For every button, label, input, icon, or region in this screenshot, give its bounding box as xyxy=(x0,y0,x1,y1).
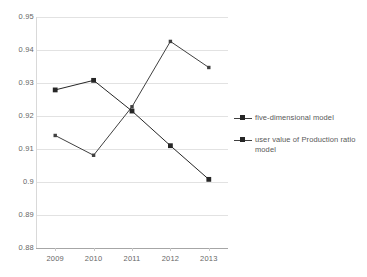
legend-item-five-dimensional-model[interactable]: five-dimensional model xyxy=(234,113,365,123)
data-point-square xyxy=(130,109,135,114)
data-point-dot xyxy=(130,105,133,108)
data-point-square xyxy=(53,88,58,93)
data-point-square xyxy=(168,143,173,148)
data-point-dot xyxy=(54,134,57,137)
data-point-dot xyxy=(169,40,172,43)
legend-label: five-dimensional model xyxy=(252,113,334,123)
data-point-square xyxy=(206,177,211,182)
legend-marker-square-icon xyxy=(234,136,252,145)
line-chart: 0.950.940.930.920.910.90.890.88 20092010… xyxy=(0,0,367,277)
data-point-dot xyxy=(92,154,95,157)
data-point-square xyxy=(91,78,96,83)
data-point-dot xyxy=(207,66,210,69)
series-2 xyxy=(53,78,211,182)
series-1 xyxy=(54,40,211,157)
series-line xyxy=(55,80,209,179)
series-line xyxy=(55,41,209,155)
legend-marker-dot-icon xyxy=(234,114,252,123)
chart-legend: five-dimensional model user value of Pro… xyxy=(234,113,365,167)
legend-label: user value of Production ratio model xyxy=(252,135,365,155)
legend-item-production-ratio-model[interactable]: user value of Production ratio model xyxy=(234,135,365,155)
